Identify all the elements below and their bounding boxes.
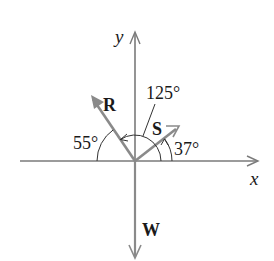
angle-125-label: 125° bbox=[146, 83, 180, 103]
angle-arc-37 bbox=[165, 139, 173, 161]
vector-s-label: S bbox=[152, 119, 162, 139]
vector-w-label: W bbox=[142, 220, 160, 240]
vector-r-label: R bbox=[103, 95, 117, 115]
vector-w bbox=[129, 161, 141, 258]
angle-55-label: 55° bbox=[73, 133, 98, 153]
y-axis-label: y bbox=[113, 26, 124, 47]
angle-37-label: 37° bbox=[174, 139, 199, 159]
x-axis-label: x bbox=[249, 168, 259, 189]
force-diagram: y x R S W 55° 125° 37° bbox=[0, 0, 274, 261]
angle-arc-55 bbox=[97, 130, 113, 161]
y-axis bbox=[130, 32, 140, 161]
